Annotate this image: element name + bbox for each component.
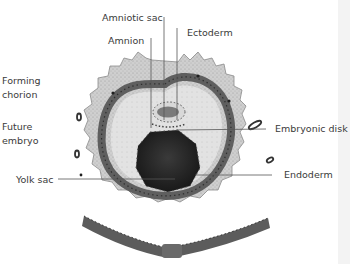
uterine-lining <box>82 216 270 258</box>
label-yolk-sac: Yolk sac <box>16 173 54 186</box>
label-forming-chorion-2: chorion <box>2 88 37 101</box>
label-endoderm: Endoderm <box>284 168 333 181</box>
amniotic-sac <box>153 102 185 122</box>
label-future-embryo-1: Future <box>2 120 32 133</box>
label-ectoderm: Ectoderm <box>187 26 233 39</box>
label-amnion: Amnion <box>108 34 144 47</box>
label-forming-chorion-1: Forming <box>2 74 41 87</box>
label-future-embryo-2: embryo <box>2 134 38 147</box>
label-embryonic-disk: Embryonic disk <box>275 122 348 135</box>
label-amniotic-sac: Amniotic sac <box>102 11 163 24</box>
